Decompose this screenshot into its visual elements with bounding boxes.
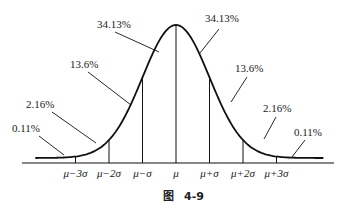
x-tick-label: μ+3σ	[264, 167, 289, 179]
region-leader-line	[200, 29, 219, 53]
region-leader-line	[231, 77, 247, 102]
region-percentage-label: 2.16%	[26, 98, 54, 110]
x-tick-label: μ+σ	[199, 167, 219, 179]
region-percentage-label: 13.6%	[70, 58, 98, 70]
region-leader-line	[115, 32, 159, 52]
region-leader-line	[88, 72, 131, 105]
region-leader-line	[39, 136, 64, 155]
x-tick-label: μ	[172, 167, 179, 179]
x-tick-label: μ−3σ	[63, 167, 88, 179]
region-leader-line	[292, 140, 305, 157]
region-leader-line	[52, 112, 96, 143]
figure-caption-prefix: 图	[163, 190, 174, 203]
figure-caption-number: 4-9	[184, 190, 204, 203]
region-percentage-label: 0.11%	[12, 122, 40, 134]
normal-distribution-diagram: 0.11%2.16%13.6%34.13%34.13%13.6%2.16%0.1…	[0, 0, 352, 209]
region-percentage-label: 34.13%	[205, 12, 239, 24]
region-percentage-label: 34.13%	[97, 18, 131, 30]
x-tick-label: μ−2σ	[96, 167, 121, 179]
region-percentage-label: 13.6%	[235, 62, 263, 74]
x-tick-label: μ+2σ	[230, 167, 255, 179]
region-percentage-label: 2.16%	[263, 102, 291, 114]
x-tick-label: μ−σ	[132, 167, 152, 179]
normal-curve	[35, 25, 323, 158]
region-percentage-label: 0.11%	[294, 126, 322, 138]
region-leader-line	[264, 117, 276, 139]
